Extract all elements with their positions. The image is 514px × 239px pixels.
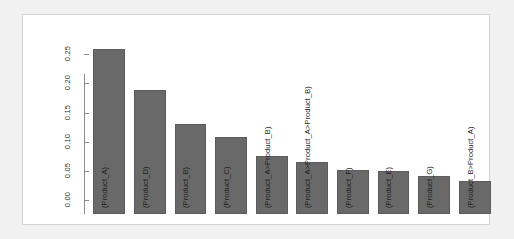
plot-area: (Product_A)(Product_D)(Product_B)(Produc… bbox=[89, 45, 495, 214]
bar-label: (Product_A>Product_A>Product_B) bbox=[303, 86, 312, 208]
bar[interactable] bbox=[215, 137, 247, 215]
bar-group[interactable]: (Product_B>Product_A) bbox=[459, 45, 491, 214]
bar-label: (Product_D) bbox=[141, 166, 150, 208]
bar-label: (Product_A) bbox=[100, 167, 109, 208]
y-axis-tick-label: 0.20 bbox=[63, 70, 72, 96]
y-axis-tick-label: 0.25 bbox=[63, 41, 72, 67]
bar-label: (Product_C) bbox=[222, 166, 231, 208]
bar-label: (Product_A>Product_B) bbox=[263, 126, 272, 208]
bar[interactable] bbox=[93, 49, 125, 214]
bar-label: (Product_B>Product_A) bbox=[466, 126, 475, 208]
bar-group[interactable]: (Product_A) bbox=[93, 45, 125, 214]
bar-group[interactable]: (Product_G) bbox=[418, 45, 450, 214]
y-axis-tick-label: 0.00 bbox=[63, 187, 72, 213]
y-axis-tick-label: 0.05 bbox=[63, 157, 72, 183]
bar[interactable] bbox=[296, 162, 328, 214]
bar-label: (Product_B) bbox=[181, 167, 190, 208]
y-axis-line bbox=[84, 74, 85, 214]
bar[interactable] bbox=[175, 124, 207, 214]
bar-group[interactable]: (Product_A>Product_B) bbox=[256, 45, 288, 214]
bar[interactable] bbox=[378, 171, 410, 214]
bar-group[interactable]: (Product_A>Product_A>Product_B) bbox=[296, 45, 328, 214]
y-axis-tick-label: 0.15 bbox=[63, 99, 72, 125]
bar-label: (Product_G) bbox=[425, 166, 434, 208]
chart-screenshot: 0.000.050.100.150.200.25 (Product_A)(Pro… bbox=[0, 0, 514, 239]
chart-panel: 0.000.050.100.150.200.25 (Product_A)(Pro… bbox=[22, 14, 490, 225]
bar-label: (Product_F) bbox=[344, 167, 353, 208]
bar-label: (Product_E) bbox=[384, 167, 393, 208]
bar-group[interactable]: (Product_C) bbox=[215, 45, 247, 214]
y-axis-tick-label: 0.10 bbox=[63, 128, 72, 154]
bar-group[interactable]: (Product_F) bbox=[337, 45, 369, 214]
bar-group[interactable]: (Product_B) bbox=[175, 45, 207, 214]
bar-group[interactable]: (Product_E) bbox=[378, 45, 410, 214]
bar-group[interactable]: (Product_D) bbox=[134, 45, 166, 214]
bar[interactable] bbox=[418, 176, 450, 214]
